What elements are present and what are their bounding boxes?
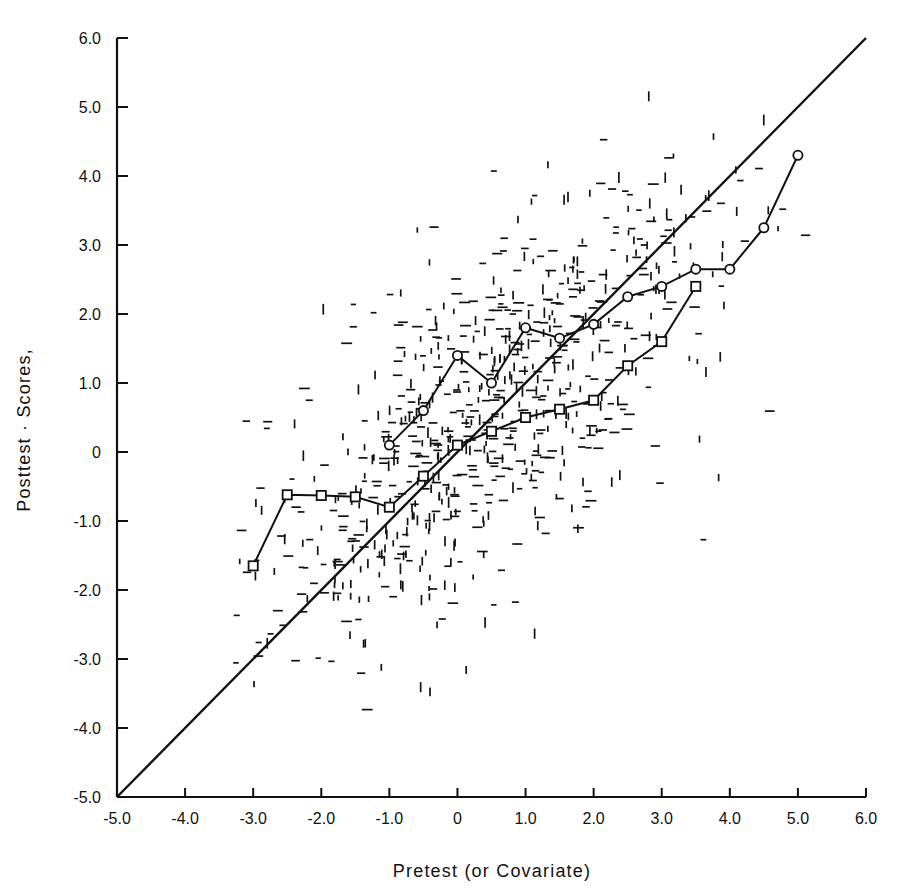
marker-circle xyxy=(419,406,428,415)
marker-circle xyxy=(521,323,530,332)
marker-square xyxy=(317,491,326,500)
y-tick-label: -2.0 xyxy=(73,582,101,599)
identity-line-path xyxy=(117,38,866,797)
marker-circle xyxy=(657,282,666,291)
marker-square xyxy=(249,561,258,570)
marker-circle xyxy=(691,265,700,274)
y-tick-label: 0 xyxy=(92,444,101,461)
x-tick-label: -3.0 xyxy=(239,810,267,827)
marker-square xyxy=(419,472,428,481)
scatter-points xyxy=(233,91,810,709)
series-lines xyxy=(117,38,866,797)
marker-square xyxy=(385,503,394,512)
y-tick-label: -1.0 xyxy=(73,513,101,530)
y-tick-label: 2.0 xyxy=(79,306,101,323)
marker-square xyxy=(691,282,700,291)
marker-circle xyxy=(793,151,802,160)
marker-square xyxy=(283,490,292,499)
marker-square xyxy=(453,441,462,450)
marker-square xyxy=(623,361,632,370)
x-tick-label: 3.0 xyxy=(651,810,673,827)
marker-circle xyxy=(385,441,394,450)
marker-circle xyxy=(759,223,768,232)
marker-circle xyxy=(453,351,462,360)
x-axis-title: Pretest (or Covariate) xyxy=(393,861,591,881)
x-tick-label: 2.0 xyxy=(583,810,605,827)
x-tick-label: -1.0 xyxy=(376,810,404,827)
marker-circle xyxy=(725,265,734,274)
y-tick-label: -4.0 xyxy=(73,720,101,737)
y-tick-label: 6.0 xyxy=(79,30,101,47)
x-tick-labels: -5.0-4.0-3.0-2.0-1.001.02.03.04.05.06.0 xyxy=(103,810,877,827)
figure-root: -5.0-4.0-3.0-2.0-1.001.02.03.04.05.06.0 … xyxy=(0,0,897,894)
x-tick-label: 0 xyxy=(453,810,462,827)
scatter-chart: -5.0-4.0-3.0-2.0-1.001.02.03.04.05.06.0 … xyxy=(0,0,897,894)
x-tick-label: 5.0 xyxy=(787,810,809,827)
marker-square xyxy=(589,396,598,405)
y-tick-label: -5.0 xyxy=(73,789,101,806)
marker-square xyxy=(351,492,360,501)
marker-circle xyxy=(623,292,632,301)
x-tick-label: 1.0 xyxy=(514,810,536,827)
y-tick-label: 4.0 xyxy=(79,168,101,185)
x-tick-label: -4.0 xyxy=(171,810,199,827)
y-tick-label: 5.0 xyxy=(79,99,101,116)
y-tick-labels: 6.05.04.03.02.01.00-1.0-2.0-3.0-4.0-5.0 xyxy=(73,30,101,806)
y-tick-label: 3.0 xyxy=(79,237,101,254)
y-tick-label: 1.0 xyxy=(79,375,101,392)
marker-circle xyxy=(555,334,564,343)
x-tick-label: -5.0 xyxy=(103,810,131,827)
marker-square xyxy=(555,405,564,414)
x-tick-label: 4.0 xyxy=(719,810,741,827)
x-tick-label: -2.0 xyxy=(307,810,335,827)
y-tick-label: -3.0 xyxy=(73,651,101,668)
marker-circle xyxy=(589,320,598,329)
marker-square xyxy=(521,413,530,422)
x-tick-label: 6.0 xyxy=(855,810,877,827)
marker-circle xyxy=(487,378,496,387)
y-axis-title: Posttest · Scores, xyxy=(14,348,34,512)
marker-square xyxy=(657,337,666,346)
marker-square xyxy=(487,427,496,436)
